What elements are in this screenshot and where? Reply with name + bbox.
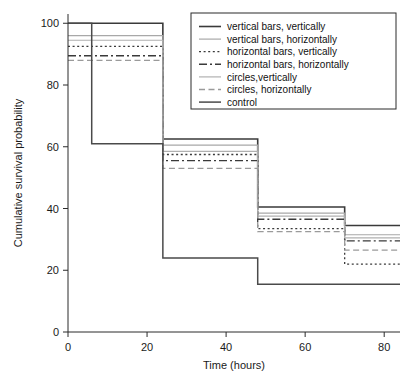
y-tick-label-1: 20 — [47, 264, 59, 276]
legend-layer: vertical bars, verticallyvertical bars, … — [191, 13, 396, 109]
legend-label-1: vertical bars, horizontally — [227, 34, 337, 45]
y-tick-label-2: 40 — [47, 203, 59, 215]
legend-label-0: vertical bars, vertically — [227, 21, 325, 32]
legend-label-4: circles,vertically — [227, 72, 297, 83]
legend-label-5: circles, horizontally — [227, 84, 311, 95]
legend-label-3: horizontal bars, horizontally — [227, 59, 349, 70]
x-axis-title: Time (hours) — [203, 359, 265, 371]
y-tick-label-5: 100 — [41, 17, 59, 29]
chart-canvas: 020406080100020406080Time (hours)Cumulat… — [0, 0, 416, 383]
survival-chart: 020406080100020406080Time (hours)Cumulat… — [0, 0, 416, 383]
legend-label-2: horizontal bars, vertically — [227, 46, 337, 57]
y-axis-title: Cumulative survival probability — [12, 98, 24, 247]
legend-label-6: control — [227, 97, 257, 108]
x-tick-label-1: 20 — [141, 341, 153, 353]
y-tick-label-0: 0 — [53, 326, 59, 338]
x-tick-label-3: 60 — [299, 341, 311, 353]
x-tick-label-0: 0 — [65, 341, 71, 353]
x-tick-label-4: 80 — [378, 341, 390, 353]
y-tick-label-4: 80 — [47, 79, 59, 91]
y-tick-label-3: 60 — [47, 141, 59, 153]
x-tick-label-2: 40 — [220, 341, 232, 353]
